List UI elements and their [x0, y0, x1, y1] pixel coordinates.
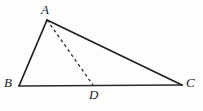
- side-AB-line: [19, 20, 47, 86]
- vertex-label-b: B: [4, 76, 12, 89]
- side-AC-line: [47, 20, 182, 85]
- triangle-diagram: [0, 0, 203, 111]
- side-BC-line: [19, 85, 182, 86]
- vertex-label-c: C: [186, 76, 195, 89]
- cevian-AD-dashed-line: [47, 20, 93, 85]
- geometry-figure: A B C D: [0, 0, 203, 111]
- vertex-label-a: A: [41, 3, 49, 16]
- vertex-label-d: D: [89, 88, 98, 101]
